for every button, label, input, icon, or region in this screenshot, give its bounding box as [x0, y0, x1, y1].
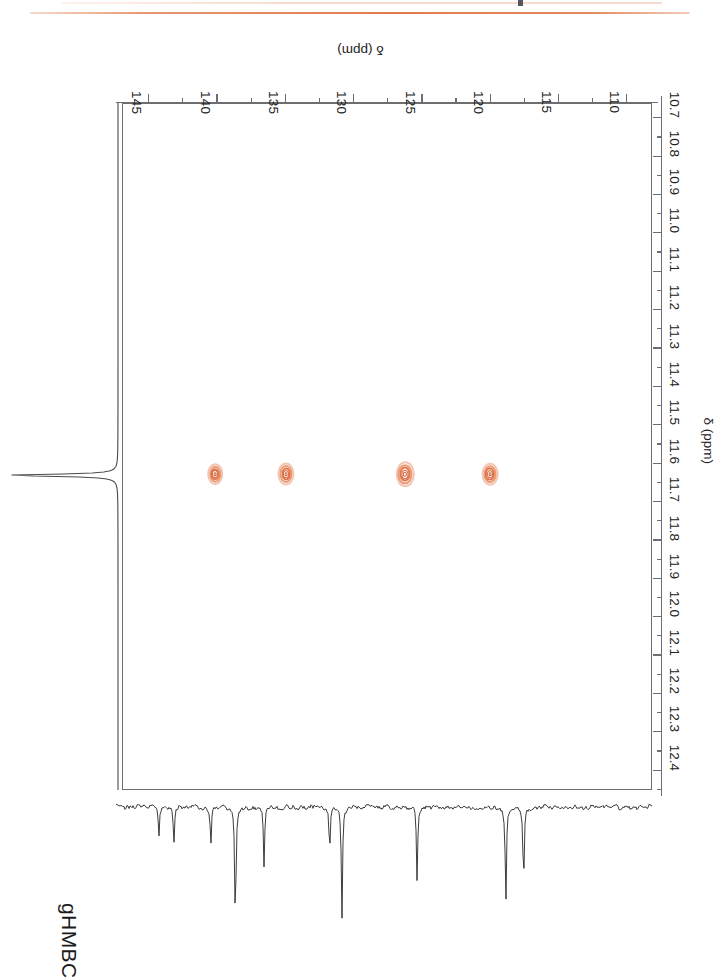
proton-projection-path	[12, 103, 118, 790]
carbon-tick-label: 120	[471, 91, 486, 114]
carbon-tick-major	[285, 94, 286, 103]
proton-tick-minor	[657, 328, 662, 329]
proton-tick-major	[653, 578, 662, 579]
carbon-tick-minor	[319, 98, 320, 103]
carbon-tick-label: 110	[607, 91, 622, 113]
cross-peak	[271, 457, 301, 491]
carbon-tick-major	[148, 94, 149, 103]
carbon-tick-minor	[387, 98, 388, 103]
proton-tick-major	[653, 309, 662, 310]
carbon-tick-label: 130	[334, 91, 349, 114]
proton-tick-major	[653, 731, 662, 732]
carbon-tick-label: 140	[198, 91, 213, 114]
proton-1d-projection	[0, 103, 122, 790]
proton-tick-major	[653, 463, 662, 464]
carbon-tick-major	[216, 94, 217, 103]
cross-peak	[200, 457, 230, 491]
proton-tick-minor	[657, 213, 662, 214]
proton-tick-label: 12.0	[667, 591, 682, 617]
proton-tick-minor	[657, 252, 662, 253]
proton-tick-label: 10.9	[667, 169, 682, 195]
proton-tick-label: 10.7	[667, 92, 682, 118]
carbon-tick-major	[421, 94, 422, 103]
carbon-tick-major	[353, 94, 354, 103]
proton-tick-minor	[657, 367, 662, 368]
proton-tick-major	[653, 539, 662, 540]
carbon-1d-trace	[116, 795, 652, 925]
proton-tick-major	[653, 194, 662, 195]
carbon-tick-minor	[455, 98, 456, 103]
proton-tick-minor	[657, 443, 662, 444]
proton-tick-minor	[657, 290, 662, 291]
proton-tick-label: 12.4	[667, 745, 682, 771]
proton-tick-major	[653, 616, 662, 617]
carbon-tick-minor	[592, 98, 593, 103]
carbon-trace-svg	[116, 795, 652, 925]
carbon-tick-minor	[182, 98, 183, 103]
carbon-tick-label: 115	[539, 91, 554, 113]
proton-tick-minor	[657, 175, 662, 176]
carbon-axis: 110115120125130135140145	[122, 102, 652, 103]
proton-tick-minor	[657, 789, 662, 790]
contour-ring	[403, 472, 407, 477]
cross-peak	[475, 457, 505, 491]
proton-tick-major	[653, 232, 662, 233]
proton-tick-label: 11.7	[667, 477, 682, 502]
proton-tick-minor	[657, 405, 662, 406]
carbon-tick-major	[626, 94, 627, 103]
proton-tick-minor	[657, 482, 662, 483]
proton-tick-label: 11.1	[667, 247, 682, 272]
carbon-tick-major	[490, 94, 491, 103]
proton-tick-major	[653, 347, 662, 348]
proton-tick-minor	[657, 520, 662, 521]
proton-tick-minor	[657, 559, 662, 560]
proton-tick-label: 11.5	[667, 400, 682, 425]
proton-axis-line	[661, 96, 662, 796]
proton-tick-label: 11.9	[667, 554, 682, 579]
proton-tick-label: 11.3	[667, 323, 682, 348]
proton-tick-label: 11.4	[667, 362, 682, 387]
carbon-tick-label: 145	[129, 91, 144, 114]
proton-tick-label: 12.2	[667, 668, 682, 694]
proton-tick-minor	[657, 635, 662, 636]
proton-tick-major	[653, 156, 662, 157]
proton-tick-major	[653, 654, 662, 655]
carbon-tick-minor	[251, 98, 252, 103]
carbon-trace-path	[116, 804, 652, 918]
contour-ring	[488, 472, 491, 477]
proton-tick-label: 12.1	[667, 629, 682, 655]
proton-tick-minor	[657, 674, 662, 675]
proton-tick-minor	[657, 136, 662, 137]
proton-tick-label: 12.3	[667, 706, 682, 732]
carbon-tick-label: 135	[266, 91, 281, 114]
proton-tick-major	[653, 693, 662, 694]
proton-axis: 10.710.810.911.011.111.211.311.411.511.6…	[651, 103, 652, 790]
proton-tick-major	[653, 386, 662, 387]
carbon-tick-minor	[524, 98, 525, 103]
proton-tick-label: 11.0	[667, 208, 682, 233]
carbon-axis-title: δ (ppm)	[0, 43, 721, 58]
proton-tick-major	[653, 117, 662, 118]
contour-ring	[214, 472, 217, 476]
proton-tick-label: 11.2	[667, 285, 682, 310]
proton-tick-minor	[657, 712, 662, 713]
carbon-tick-major	[558, 94, 559, 103]
cross-peak	[390, 457, 420, 491]
proton-tick-label: 10.8	[667, 130, 682, 156]
proton-tick-minor	[657, 597, 662, 598]
proton-tick-major	[653, 501, 662, 502]
carbon-tick-label: 125	[403, 91, 418, 114]
proton-tick-label: 11.8	[667, 515, 682, 540]
proton-projection-svg	[0, 103, 122, 790]
proton-tick-major	[653, 770, 662, 771]
proton-tick-major	[653, 271, 662, 272]
proton-tick-label: 11.6	[667, 439, 682, 464]
experiment-label: gHMBC	[57, 903, 81, 979]
proton-tick-minor	[657, 750, 662, 751]
spectrum-plot-area	[122, 103, 652, 790]
proton-tick-major	[653, 424, 662, 425]
contour-ring	[285, 472, 288, 477]
proton-axis-title: δ (ppm)	[701, 417, 716, 464]
